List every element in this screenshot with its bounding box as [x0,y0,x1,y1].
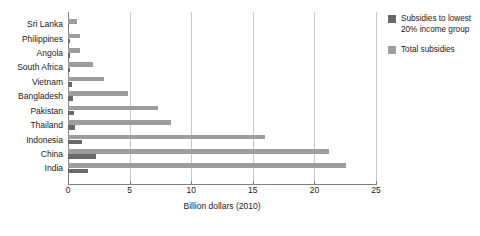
x-axis-ticks: 0510152025 [68,185,376,199]
x-tick-label: 25 [371,185,380,195]
gridline-25 [376,12,377,185]
legend: Subsidies to lowest 20% income group Tot… [388,14,478,66]
category-label: Thailand [30,120,63,130]
bar-lowest-20-subsidies [68,53,70,58]
category-label: Pakistan [30,106,63,116]
category-label: Indonesia [26,135,63,145]
bar-row: Angola [68,46,376,60]
bar-row: India [68,161,376,175]
legend-swatch-icon-0 [388,15,396,23]
bar-total-subsidies [68,34,80,39]
plot-area: Sri LankaPhilippinesAngolaSouth AfricaVi… [68,12,376,185]
bar-lowest-20-subsidies [68,82,72,87]
category-label: Philippines [22,34,63,44]
x-tick-mark [130,181,131,185]
bar-lowest-20-subsidies [68,39,70,44]
bar-lowest-20-subsidies [68,111,74,116]
bar-total-subsidies [68,149,329,154]
category-label: India [45,163,63,173]
x-axis-label: Billion dollars (2010) [68,201,376,211]
category-label: Bangladesh [18,91,63,101]
legend-label-1: Total subsidies [401,45,455,54]
bar-total-subsidies [68,62,93,67]
category-label: South Africa [17,62,63,72]
bar-row: Pakistan [68,104,376,118]
bar-total-subsidies [68,77,104,82]
x-tick-mark [376,181,377,185]
bar-total-subsidies [68,120,171,125]
legend-label-0: Subsidies to lowest 20% income group [401,14,471,34]
x-tick-mark [314,181,315,185]
x-tick-mark [253,181,254,185]
bar-lowest-20-subsidies [68,169,88,174]
category-label: Sri Lanka [27,19,63,29]
bar-row: Indonesia [68,132,376,146]
bar-lowest-20-subsidies [68,24,69,29]
x-tick-label: 5 [127,185,132,195]
x-tick-label: 10 [186,185,195,195]
bar-total-subsidies [68,91,128,96]
x-tick-label: 15 [248,185,257,195]
x-tick-label: 0 [66,185,71,195]
bar-chart: Sri LankaPhilippinesAngolaSouth AfricaVi… [0,0,480,236]
bar-lowest-20-subsidies [68,125,75,130]
bar-row: Philippines [68,31,376,45]
bar-row: Vietnam [68,75,376,89]
bar-row: China [68,147,376,161]
bar-row: Thailand [68,118,376,132]
legend-item-0: Subsidies to lowest 20% income group [388,14,478,35]
bar-lowest-20-subsidies [68,154,96,159]
category-label: Vietnam [32,77,63,87]
bar-rows: Sri LankaPhilippinesAngolaSouth AfricaVi… [68,12,376,185]
bar-lowest-20-subsidies [68,96,73,101]
category-label: China [41,149,63,159]
bar-row: Sri Lanka [68,17,376,31]
bar-row: Bangladesh [68,89,376,103]
category-label: Angola [37,48,63,58]
x-tick-mark [68,181,69,185]
bar-total-subsidies [68,48,80,53]
bar-total-subsidies [68,135,265,140]
bar-lowest-20-subsidies [68,68,70,73]
legend-swatch-icon-1 [388,46,396,54]
bar-total-subsidies [68,163,346,168]
legend-item-1: Total subsidies [388,45,478,56]
x-tick-label: 20 [310,185,319,195]
bar-row: South Africa [68,60,376,74]
bar-lowest-20-subsidies [68,140,82,145]
bar-total-subsidies [68,19,77,24]
x-tick-mark [191,181,192,185]
bar-total-subsidies [68,106,158,111]
